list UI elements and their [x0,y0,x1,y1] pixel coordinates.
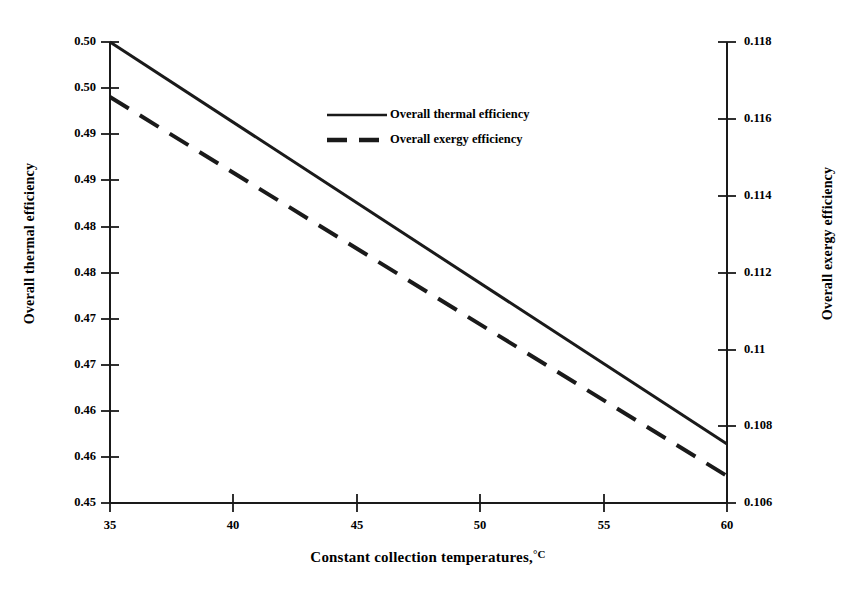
x-axis-title-text: Constant collection temperatures, [310,549,533,565]
series-line-exergy [110,97,727,476]
y-axis-right-title: Overall exergy efficiency [820,0,850,540]
x-tick-label: 60 [697,518,757,533]
x-tick-label: 50 [450,518,510,533]
x-tick-label: 55 [574,518,634,533]
y-right-tick-label: 0.114 [744,188,824,203]
series-line-thermal [110,42,727,444]
y-right-tick-label: 0.116 [744,111,824,126]
y-right-tick-label: 0.112 [744,265,824,280]
legend-label-exergy: Overall exergy efficiency [390,132,523,147]
y-right-tick-label: 0.11 [744,342,824,357]
y-left-tick-label: 0.47 [24,357,96,372]
x-tick-label: 45 [327,518,387,533]
y-left-tick-label: 0.49 [24,172,96,187]
chart-figure: Overall thermal efficiency Overall exerg… [0,0,856,593]
y-left-tick-label: 0.48 [24,265,96,280]
x-tick-label: 40 [203,518,263,533]
y-left-tick-label: 0.46 [24,403,96,418]
y-left-tick-label: 0.48 [24,219,96,234]
degree-celsius-unit: °C [533,548,546,560]
y-left-tick-label: 0.49 [24,126,96,141]
y-left-tick-label: 0.45 [24,495,96,510]
y-right-tick-label: 0.108 [744,418,824,433]
y-left-tick-label: 0.47 [24,311,96,326]
y-right-tick-label: 0.106 [744,495,824,510]
plot-area [0,0,856,593]
y-left-tick-label: 0.50 [24,34,96,49]
x-tick-label: 35 [80,518,140,533]
y-left-tick-label: 0.46 [24,449,96,464]
legend-label-thermal: Overall thermal efficiency [390,107,530,122]
y-left-tick-label: 0.50 [24,80,96,95]
x-axis-title: Constant collection temperatures,°C [0,548,856,566]
y-right-tick-label: 0.118 [744,34,824,49]
